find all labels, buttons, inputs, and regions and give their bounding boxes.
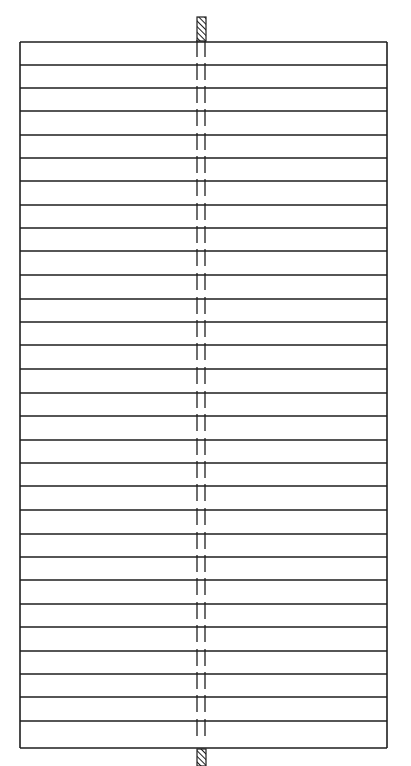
plate: [20, 557, 387, 580]
plate: [20, 580, 387, 604]
plate: [20, 697, 387, 721]
top-cap: [197, 17, 206, 41]
plate: [20, 627, 387, 651]
plate: [20, 251, 387, 275]
plate: [20, 181, 387, 205]
plate-stack-diagram: [0, 0, 411, 766]
plates-group: [20, 42, 387, 748]
plate: [20, 651, 387, 674]
plate: [20, 322, 387, 345]
plate: [20, 135, 387, 158]
plate: [20, 393, 387, 416]
plate: [20, 228, 387, 251]
diagram-canvas: [0, 0, 411, 766]
plate: [20, 510, 387, 534]
plate: [20, 440, 387, 463]
plate: [20, 486, 387, 510]
plate: [20, 604, 387, 627]
plate: [20, 369, 387, 393]
plate: [20, 275, 387, 299]
plate: [20, 416, 387, 440]
bottom-cap: [197, 749, 206, 766]
plate: [20, 463, 387, 486]
plate: [20, 721, 387, 748]
plate: [20, 299, 387, 322]
plate: [20, 88, 387, 111]
plate: [20, 65, 387, 88]
plate: [20, 205, 387, 228]
plate: [20, 158, 387, 181]
central-rod: [197, 40, 205, 736]
plate: [20, 674, 387, 697]
plate: [20, 345, 387, 369]
plate: [20, 111, 387, 135]
plate: [20, 534, 387, 557]
plate: [20, 42, 387, 65]
